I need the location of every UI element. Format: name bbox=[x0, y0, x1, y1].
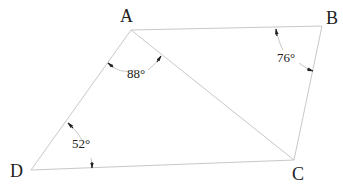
diagonal-ac bbox=[131, 30, 294, 160]
edge-bc bbox=[294, 26, 322, 160]
vertex-label-b: B bbox=[326, 8, 338, 28]
vertex-label-a: A bbox=[120, 6, 133, 26]
vertex-label-c: C bbox=[292, 164, 304, 184]
edge-ab bbox=[131, 26, 322, 30]
arrow-a-right bbox=[157, 56, 161, 62]
angle-arc-b2 bbox=[299, 63, 311, 70]
arrow-b-top bbox=[276, 29, 277, 36]
quadrilateral-diagram: A B C D 88° 76° 52° bbox=[0, 0, 343, 186]
angle-label-b: 76° bbox=[277, 50, 295, 65]
arrow-a-left bbox=[108, 63, 113, 67]
vertex-label-d: D bbox=[10, 161, 23, 181]
angle-label-a: 88° bbox=[127, 66, 145, 81]
angle-label-d: 52° bbox=[72, 136, 90, 151]
edge-cd bbox=[31, 160, 294, 170]
arrow-d-top bbox=[68, 123, 73, 128]
